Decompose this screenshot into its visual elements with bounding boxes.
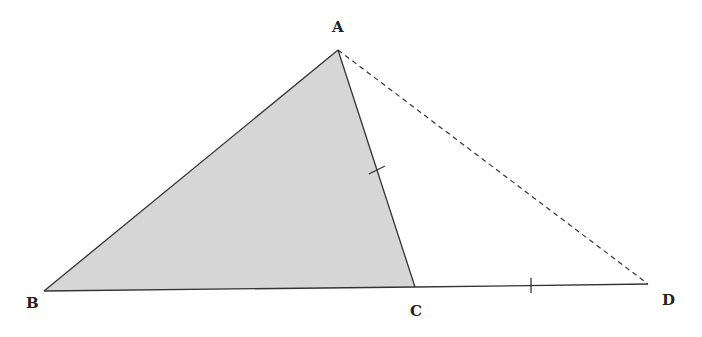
shaded-triangle-abc	[44, 50, 415, 291]
label-c: C	[410, 302, 422, 320]
label-b: B	[26, 294, 39, 312]
label-a: A	[331, 18, 344, 36]
geometry-diagram: A B C D	[0, 0, 702, 337]
label-d: D	[662, 291, 675, 309]
